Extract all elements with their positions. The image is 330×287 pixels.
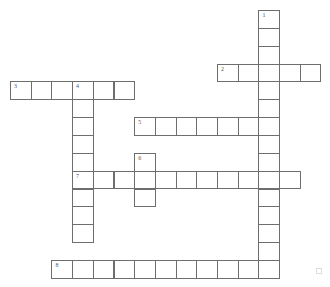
- crossword-cell[interactable]: [258, 117, 280, 136]
- crossword-cell[interactable]: [72, 224, 94, 243]
- crossword-cell[interactable]: [72, 206, 94, 225]
- crossword-cell[interactable]: [217, 117, 239, 136]
- crossword-cell[interactable]: 3: [10, 81, 32, 100]
- crossword-cell[interactable]: [196, 171, 218, 190]
- crossword-cell[interactable]: [238, 171, 260, 190]
- crossword-cell[interactable]: [258, 224, 280, 243]
- crossword-cell[interactable]: [114, 260, 136, 279]
- clue-number: 2: [221, 66, 224, 72]
- crossword-cell[interactable]: [258, 64, 280, 83]
- crossword-cell[interactable]: [196, 117, 218, 136]
- clue-number: 3: [14, 83, 17, 89]
- crossword-cell[interactable]: [72, 189, 94, 208]
- clue-number: 4: [76, 83, 79, 89]
- crossword-cell[interactable]: [279, 64, 301, 83]
- crossword-cell[interactable]: [114, 171, 136, 190]
- crossword-cell[interactable]: [217, 171, 239, 190]
- crossword-cell[interactable]: [258, 28, 280, 47]
- crossword-cell[interactable]: [114, 81, 136, 100]
- crossword-cell[interactable]: [134, 171, 156, 190]
- crossword-cell[interactable]: 4: [72, 81, 94, 100]
- crossword-cell[interactable]: [72, 135, 94, 154]
- crossword-cell[interactable]: 8: [51, 260, 73, 279]
- crossword-cell[interactable]: [134, 189, 156, 208]
- crossword-cell[interactable]: [217, 260, 239, 279]
- crossword-cell[interactable]: 5: [134, 117, 156, 136]
- crossword-cell[interactable]: [72, 153, 94, 172]
- crossword-cell[interactable]: [31, 81, 53, 100]
- crossword-cell[interactable]: [300, 64, 322, 83]
- crossword-cell[interactable]: [238, 260, 260, 279]
- corner-square-icon: [316, 268, 322, 274]
- crossword-cell[interactable]: [258, 135, 280, 154]
- crossword-cell[interactable]: [176, 260, 198, 279]
- crossword-cell[interactable]: [93, 81, 115, 100]
- crossword-cell[interactable]: [72, 117, 94, 136]
- crossword-cell[interactable]: [258, 171, 280, 190]
- crossword-cell[interactable]: [258, 46, 280, 65]
- crossword-cell[interactable]: 1: [258, 10, 280, 29]
- crossword-cell[interactable]: [279, 171, 301, 190]
- crossword-cell[interactable]: [134, 260, 156, 279]
- clue-number: 5: [138, 119, 141, 125]
- crossword-cell[interactable]: [176, 171, 198, 190]
- crossword-cell[interactable]: [258, 189, 280, 208]
- crossword-cell[interactable]: [72, 99, 94, 118]
- crossword-cell[interactable]: [258, 153, 280, 172]
- crossword-cell[interactable]: [155, 260, 177, 279]
- crossword-cell[interactable]: [51, 81, 73, 100]
- crossword-cell[interactable]: 6: [134, 153, 156, 172]
- crossword-cell[interactable]: 7: [72, 171, 94, 190]
- clue-number: 6: [138, 155, 141, 161]
- crossword-cell[interactable]: [258, 99, 280, 118]
- crossword-board: 12347568: [0, 0, 330, 287]
- crossword-cell[interactable]: [238, 117, 260, 136]
- crossword-cell[interactable]: [155, 171, 177, 190]
- crossword-cell[interactable]: [155, 117, 177, 136]
- crossword-cell[interactable]: [258, 206, 280, 225]
- crossword-cell[interactable]: [176, 117, 198, 136]
- crossword-cell[interactable]: [196, 260, 218, 279]
- crossword-cell[interactable]: 2: [217, 64, 239, 83]
- crossword-cell[interactable]: [258, 260, 280, 279]
- clue-number: 1: [262, 12, 265, 18]
- crossword-cell[interactable]: [93, 260, 115, 279]
- crossword-cell[interactable]: [238, 64, 260, 83]
- crossword-cell[interactable]: [93, 171, 115, 190]
- clue-number: 7: [76, 173, 79, 179]
- crossword-cell[interactable]: [258, 81, 280, 100]
- crossword-cell[interactable]: [258, 242, 280, 261]
- crossword-cell[interactable]: [72, 260, 94, 279]
- clue-number: 8: [55, 262, 58, 268]
